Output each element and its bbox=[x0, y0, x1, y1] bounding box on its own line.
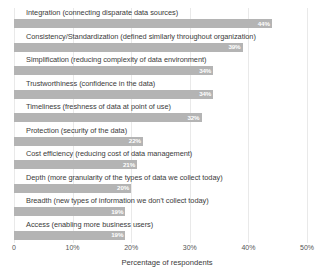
x-tick-label: 10% bbox=[66, 243, 80, 253]
bar-row[interactable]: Simplification (reducing complexity of d… bbox=[14, 55, 307, 79]
bar-track: 39% bbox=[14, 43, 307, 52]
bar-track: 32% bbox=[14, 113, 307, 122]
bar-value-label: 44% bbox=[258, 20, 270, 28]
bar-value-label: 39% bbox=[228, 43, 240, 51]
bar-category-label: Depth (more granularity of the types of … bbox=[26, 173, 223, 183]
x-tick-label: 50% bbox=[300, 243, 314, 253]
bar-value-label: 22% bbox=[129, 137, 141, 145]
bar-value-label: 20% bbox=[117, 184, 129, 192]
bar-row[interactable]: Integration (connecting disparate data s… bbox=[14, 8, 307, 32]
bar-track: 22% bbox=[14, 137, 307, 146]
bar-category-label: Simplification (reducing complexity of d… bbox=[26, 55, 206, 65]
bar-track: 44% bbox=[14, 19, 307, 28]
bar-category-label: Access (enabling more business users) bbox=[26, 220, 153, 230]
bar-fill[interactable]: 34% bbox=[14, 66, 213, 75]
bar-row[interactable]: Cost efficiency (reducing cost of data m… bbox=[14, 149, 307, 173]
x-tick-label: 30% bbox=[183, 243, 197, 253]
bar-fill[interactable]: 22% bbox=[14, 137, 143, 146]
bar-fill[interactable]: 32% bbox=[14, 113, 202, 122]
x-axis: 010%20%30%40%50% bbox=[14, 243, 307, 257]
bar-fill[interactable]: 34% bbox=[14, 90, 213, 99]
bar-fill[interactable]: 19% bbox=[14, 207, 125, 216]
x-axis-title: Percentage of respondents bbox=[0, 258, 334, 267]
bar-fill[interactable]: 39% bbox=[14, 43, 243, 52]
x-tick-label: 20% bbox=[124, 243, 138, 253]
bar-fill[interactable]: 44% bbox=[14, 19, 272, 28]
bar-category-label: Trustworthiness (confidence in the data) bbox=[26, 79, 155, 89]
bar-fill[interactable]: 21% bbox=[14, 160, 137, 169]
horizontal-bar-chart: Integration (connecting disparate data s… bbox=[0, 0, 334, 276]
bar-row[interactable]: Breadth (new types of information we don… bbox=[14, 196, 307, 220]
bar-value-label: 32% bbox=[187, 114, 199, 122]
bar-track: 21% bbox=[14, 160, 307, 169]
bar-category-label: Timeliness (freshness of data at point o… bbox=[26, 102, 171, 112]
bar-category-label: Breadth (new types of information we don… bbox=[26, 196, 209, 206]
bar-value-label: 19% bbox=[111, 208, 123, 216]
bar-row[interactable]: Consistency/Standardization (defined sim… bbox=[14, 32, 307, 56]
bar-track: 34% bbox=[14, 66, 307, 75]
bar-track: 34% bbox=[14, 90, 307, 99]
bar-track: 19% bbox=[14, 231, 307, 240]
bar-row[interactable]: Timeliness (freshness of data at point o… bbox=[14, 102, 307, 126]
bar-category-label: Protection (security of the data) bbox=[26, 126, 127, 136]
bar-category-label: Cost efficiency (reducing cost of data m… bbox=[26, 149, 192, 159]
x-tick-label: 40% bbox=[241, 243, 255, 253]
bar-category-label: Integration (connecting disparate data s… bbox=[26, 8, 178, 18]
bar-row[interactable]: Access (enabling more business users)19% bbox=[14, 220, 307, 244]
gridline bbox=[307, 8, 308, 243]
x-tick-label: 0 bbox=[12, 243, 16, 253]
bar-track: 20% bbox=[14, 184, 307, 193]
bar-row[interactable]: Protection (security of the data)22% bbox=[14, 126, 307, 150]
bar-value-label: 21% bbox=[123, 161, 135, 169]
bar-value-label: 34% bbox=[199, 67, 211, 75]
bar-row[interactable]: Trustworthiness (confidence in the data)… bbox=[14, 79, 307, 103]
bar-track: 19% bbox=[14, 207, 307, 216]
bar-row[interactable]: Depth (more granularity of the types of … bbox=[14, 173, 307, 197]
bar-fill[interactable]: 20% bbox=[14, 184, 131, 193]
bar-value-label: 19% bbox=[111, 231, 123, 239]
bar-value-label: 34% bbox=[199, 90, 211, 98]
bar-category-label: Consistency/Standardization (defined sim… bbox=[26, 32, 256, 42]
bar-fill[interactable]: 19% bbox=[14, 231, 125, 240]
plot-area: Integration (connecting disparate data s… bbox=[14, 8, 307, 243]
